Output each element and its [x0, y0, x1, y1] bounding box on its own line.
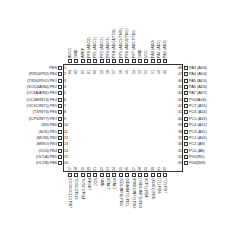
pin-number: 8 [64, 110, 66, 114]
pin-label: (RXD0/PDI) PE0 [29, 72, 57, 76]
pin-number: 56 [119, 70, 123, 74]
pin-number: 24 [112, 167, 116, 171]
pin-number: 18 [74, 167, 78, 171]
pin-label: PA6 (AD6) [189, 85, 207, 89]
pin-number: 63 [74, 70, 78, 74]
pin-number: 26 [125, 167, 129, 171]
pin-label: PA7 (AD7) [189, 91, 207, 95]
pin-label: PC3 (A11) [189, 130, 206, 134]
pin-label: RESET [87, 178, 91, 191]
pin-label: PF1 (ADC1) [93, 37, 97, 58]
pin-label: PG2(ALE) [189, 98, 206, 102]
pin-pad [58, 72, 62, 76]
pin-number: 40 [178, 117, 182, 121]
pin-label: PA5 (AD5) [189, 79, 207, 83]
pin-pad [58, 85, 62, 89]
pin-number: 11 [64, 130, 68, 134]
pin-label: (TXD1/INT3) PD3 [138, 178, 142, 208]
pin-pad [58, 123, 62, 127]
pin-label: (OC1B) PB6 [36, 161, 57, 165]
pin-number: 30 [151, 167, 155, 171]
pin-label: (SCL/INT0) PD0 [119, 178, 123, 206]
pin-pad [58, 66, 62, 70]
pin-number: 3 [64, 79, 66, 83]
pin-pad [184, 117, 188, 121]
pin-pad [184, 161, 188, 165]
pin-pad [138, 59, 142, 63]
pin-number: 9 [64, 117, 66, 121]
pin-pad [106, 173, 110, 177]
pin-number: 61 [87, 70, 91, 74]
pin-pad [184, 142, 188, 146]
pin-label: (SS) PB0 [41, 123, 57, 127]
pin-number: 46 [178, 79, 182, 83]
pin-number: 16 [64, 161, 68, 165]
pin-pad [184, 110, 188, 114]
pin-pad [100, 173, 104, 177]
pin-number: 60 [93, 70, 97, 74]
pin-pad [58, 98, 62, 102]
pin-label: PF5 (ADC5/TMS) [119, 28, 123, 58]
pin-number: 4 [64, 85, 66, 89]
pin-number: 42 [178, 104, 182, 108]
pin-label: (OC0) PB4 [38, 149, 57, 153]
pin-label: GND [138, 50, 142, 58]
pin-number: 39 [178, 123, 182, 127]
pin-pad [93, 59, 97, 63]
pin-number: 7 [64, 104, 66, 108]
pin-label: PC0 (A8) [189, 149, 205, 153]
pin-pad [58, 117, 62, 121]
pin-number: 29 [144, 167, 148, 171]
pin-number: 36 [178, 142, 182, 146]
pin-number: 48 [178, 66, 182, 70]
pin-label: (OC3B/INT4) PE4 [27, 98, 57, 102]
pin-label: PA1 (AD1) [157, 40, 161, 58]
pin-label: PC4 (A12) [189, 123, 207, 127]
pin-label: TOSC1/PG4 [81, 178, 85, 199]
pin-pad [184, 104, 188, 108]
pin-number: 13 [64, 142, 68, 146]
pin-pad [138, 173, 142, 177]
pin-number: 27 [132, 167, 136, 171]
pin-pad [74, 59, 78, 63]
pin-number: 15 [64, 155, 68, 159]
pin-pad [157, 59, 161, 63]
pin-pad [74, 173, 78, 177]
pin-number: 34 [178, 155, 182, 159]
pin-pad [184, 91, 188, 95]
pin-pad [58, 110, 62, 114]
pin-pad [58, 91, 62, 95]
chip-body [63, 64, 183, 172]
pin-number: 21 [93, 167, 97, 171]
pin-pad [132, 59, 136, 63]
pin-pad [163, 59, 167, 63]
pin-pad [132, 173, 136, 177]
pin-pad [184, 72, 188, 76]
pin-label: PA2 (AD2) [163, 40, 167, 58]
pin-pad [58, 149, 62, 153]
pin-pad [87, 173, 91, 177]
pin-number: 19 [81, 167, 85, 171]
pin-number: 49 [163, 70, 167, 74]
pin-pad [58, 142, 62, 146]
pin-number: 14 [64, 149, 68, 153]
pin-pad [58, 161, 62, 165]
pin-number: 55 [125, 70, 129, 74]
pin-label: (OC2/OC1C) PB7 [68, 178, 72, 208]
pin-label: (TXD0/PDO) PE1 [27, 79, 57, 83]
chip-pinout-diagram: 1PEN2(RXD0/PDI) PE03(TXD0/PDO) PE14(XCK0… [0, 0, 239, 240]
pin-label: PF6 (ADC6/TDO) [125, 28, 129, 58]
pin-label: PF4 (ADC4/TCK) [112, 29, 116, 58]
pin-pad [100, 59, 104, 63]
pin-number: 33 [178, 161, 182, 165]
pin-pad [157, 173, 161, 177]
pin-pad [184, 136, 188, 140]
pin-label: (ICP3/INT7) PE7 [29, 117, 57, 121]
pin-label: PA4 (AD4) [189, 72, 207, 76]
pin-label: VCC [144, 50, 148, 58]
pin-label: XTAL2 [106, 178, 110, 189]
pin-pad [93, 173, 97, 177]
pin-label: PF0 (ADC0) [87, 37, 91, 58]
pin-label: TOSC2/PG3 [74, 178, 78, 199]
pin-label: GND [74, 50, 78, 58]
